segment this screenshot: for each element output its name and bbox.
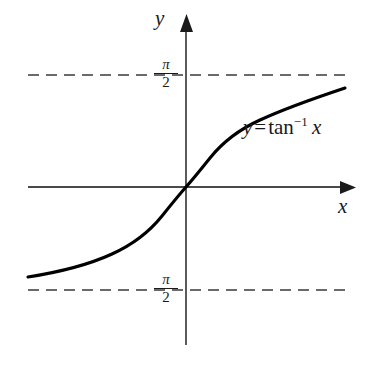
tick-label-pi-over-two-lower: π 2 bbox=[151, 272, 181, 305]
equation-equals-sign: = bbox=[252, 115, 268, 139]
y-axis-arrowhead bbox=[180, 14, 193, 32]
tick-label-pi-over-two-upper: π 2 bbox=[151, 57, 181, 90]
curve-equation-label: y=tan−1 x bbox=[243, 115, 321, 138]
arctangent-graph-figure: y x y=tan−1 x π 2 π 2 bbox=[0, 0, 371, 368]
tick-upper-denominator: 2 bbox=[151, 75, 181, 90]
tick-upper-numerator: π bbox=[151, 57, 181, 73]
tick-lower-numerator: π bbox=[151, 272, 181, 288]
equation-variable: x bbox=[312, 115, 321, 139]
plot-canvas bbox=[0, 0, 371, 368]
equation-y-term: y bbox=[243, 115, 252, 139]
tick-lower-denominator: 2 bbox=[151, 290, 181, 305]
x-axis-arrowhead bbox=[340, 181, 356, 194]
equation-function-name: tan bbox=[268, 115, 294, 139]
axis-label-x: x bbox=[338, 196, 347, 217]
axis-label-y: y bbox=[155, 8, 164, 29]
equation-exponent: −1 bbox=[294, 114, 308, 129]
